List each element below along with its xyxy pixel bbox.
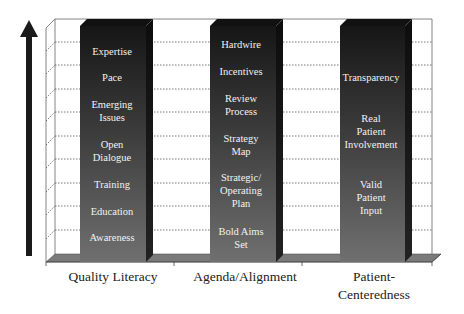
bar-item-pace: Pace [102, 71, 122, 84]
chart: Expertise Pace EmergingIssues OpenDialog… [0, 0, 464, 314]
bar-item-strategic-operating-plan: Strategic/OperatingPlan [220, 171, 262, 210]
bar-item-awareness: Awareness [89, 231, 134, 244]
bar-item-bold-aims-set: Bold AimsSet [218, 225, 263, 251]
category-label-quality-literacy: Quality Literacy [69, 268, 158, 286]
bar-item-incentives: Incentives [219, 65, 262, 78]
bar-item-emerging-issues: EmergingIssues [91, 98, 132, 124]
bar-item-training: Training [94, 178, 130, 191]
bar-item-hardwire: Hardwire [221, 38, 261, 51]
bar-item-expertise: Expertise [92, 45, 132, 58]
bar-item-real-patient-involvement: RealPatientInvolvement [344, 112, 397, 151]
category-label-patient-centeredness: Patient-Centeredness [338, 268, 410, 304]
up-arrow-icon [20, 20, 38, 256]
bar-item-review-process: ReviewProcess [225, 92, 257, 118]
bar-item-transparency: Transparency [343, 71, 400, 84]
bar-item-strategy-map: StrategyMap [224, 132, 259, 158]
category-label-agenda-alignment: Agenda/Alignment [193, 268, 296, 286]
bar-item-education: Education [91, 205, 134, 218]
bar-item-valid-patient-input: ValidPatientInput [356, 178, 385, 217]
bar-item-open-dialogue: OpenDialogue [93, 138, 132, 164]
